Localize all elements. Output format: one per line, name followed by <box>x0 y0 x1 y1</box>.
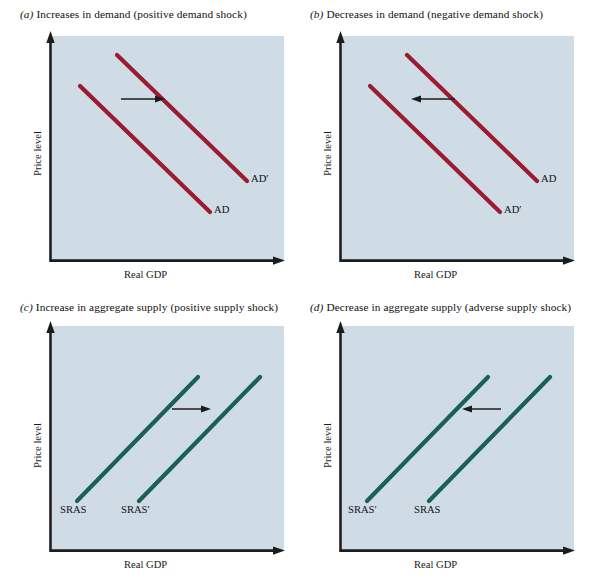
panel-c-label-sras-prime: SRAS′ <box>121 504 150 515</box>
panel-c: (c) Increase in aggregate supply (positi… <box>2 293 292 583</box>
panel-b-x-axis-title: Real GDP <box>414 269 457 280</box>
panel-a-plot <box>2 0 292 290</box>
panel-d-y-axis-title: Price level <box>322 423 333 468</box>
panel-c-y-axis-title: Price level <box>32 423 43 468</box>
panel-a-x-axis-title: Real GDP <box>124 269 167 280</box>
panel-a-label-ad-prime: AD′ <box>251 173 269 184</box>
panel-b-plot <box>292 0 582 290</box>
panel-d-plot-background <box>342 326 574 550</box>
panel-b-label-ad-prime: AD′ <box>504 204 522 215</box>
panel-c-x-axis-title: Real GDP <box>124 559 167 570</box>
panel-a-y-axis-title: Price level <box>32 131 43 176</box>
panel-d-label-sras: SRAS <box>414 504 441 515</box>
ad-as-shock-figure: (a) Increases in demand (positive demand… <box>0 0 595 587</box>
panel-c-plot <box>2 293 292 587</box>
panel-a: (a) Increases in demand (positive demand… <box>2 0 292 290</box>
panel-a-plot-background <box>52 36 284 260</box>
panel-b-label-ad: AD <box>541 173 556 184</box>
panel-d-label-sras-prime: SRAS′ <box>348 504 377 515</box>
panel-b-y-axis-title: Price level <box>322 131 333 176</box>
panel-d: (d) Decrease in aggregate supply (advers… <box>292 293 582 583</box>
panel-a-label-ad: AD <box>214 204 229 215</box>
panel-d-x-axis-title: Real GDP <box>414 559 457 570</box>
panel-b-plot-background <box>342 36 574 260</box>
panel-c-plot-background <box>52 326 284 550</box>
panel-b: (b) Decreases in demand (negative demand… <box>292 0 582 290</box>
panel-c-label-sras: SRAS <box>60 504 87 515</box>
panel-d-plot <box>292 293 582 587</box>
